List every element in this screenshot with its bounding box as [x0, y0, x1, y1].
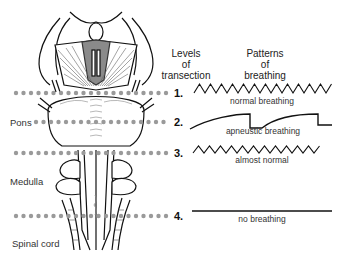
transection-dot [96, 214, 100, 218]
patterns-header: Patterns of breathing [232, 48, 298, 81]
levels-header-line: of [160, 59, 212, 70]
transection-dot [81, 91, 85, 95]
transection-dot [36, 214, 40, 218]
transection-dot [104, 91, 108, 95]
transection-dot [149, 214, 153, 218]
transection-dot [71, 120, 75, 124]
label-pons: Pons [10, 117, 32, 128]
transection-dot [29, 151, 33, 155]
transection-dot [101, 120, 105, 124]
transection-dot [29, 91, 33, 95]
label-medulla: Medulla [10, 176, 43, 187]
transection-dot [64, 120, 68, 124]
transection-dot [119, 91, 123, 95]
level-number-2: 2. [174, 116, 183, 128]
transection-dot [51, 151, 55, 155]
transection-dot [56, 120, 60, 124]
transection-dot [34, 120, 38, 124]
transection-dot [156, 151, 160, 155]
transection-dot [109, 120, 113, 124]
transection-dot [141, 91, 145, 95]
transection-dot [111, 91, 115, 95]
transection-dot [44, 214, 48, 218]
transection-dot [111, 151, 115, 155]
transection-dot [59, 214, 63, 218]
transection-dot [59, 91, 63, 95]
levels-header-line: Levels [160, 48, 212, 59]
transection-dot [119, 151, 123, 155]
transection-dot [14, 214, 18, 218]
transection-dot [44, 91, 48, 95]
transection-dot [89, 214, 93, 218]
transection-dot [126, 214, 130, 218]
transection-dot [74, 151, 78, 155]
patterns-header-line: breathing [232, 70, 298, 81]
transection-dot [94, 120, 98, 124]
transection-dot [134, 214, 138, 218]
wave-normal-breathing [194, 84, 332, 93]
label-spinal-cord: Spinal cord [12, 238, 60, 249]
transection-dot [29, 214, 33, 218]
level-number-1: 1. [174, 87, 183, 99]
transection-dot [139, 120, 143, 124]
level-number-4: 4. [174, 210, 183, 222]
transection-dot [21, 151, 25, 155]
transection-dot [124, 120, 128, 124]
transection-dot [74, 214, 78, 218]
transection-dot [79, 120, 83, 124]
transection-dot [36, 151, 40, 155]
transection-dot [51, 91, 55, 95]
transection-dot [156, 91, 160, 95]
transection-dot [36, 91, 40, 95]
transection-dot [89, 91, 93, 95]
transection-dot [156, 214, 160, 218]
transection-dot [49, 120, 53, 124]
transection-dot [126, 91, 130, 95]
transection-dot [81, 151, 85, 155]
transection-dot [149, 151, 153, 155]
patterns-header-line: of [232, 59, 298, 70]
transection-dot [66, 214, 70, 218]
transection-dot [81, 214, 85, 218]
patterns-header-line: Patterns [232, 48, 298, 59]
transection-dot [41, 120, 45, 124]
transection-dot [86, 120, 90, 124]
transection-dot [164, 214, 168, 218]
transection-dot [116, 120, 120, 124]
levels-header: Levels of transection [160, 48, 212, 81]
transection-dot [14, 91, 18, 95]
transection-dot [51, 214, 55, 218]
transection-dot [96, 91, 100, 95]
levels-header-line: transection [160, 70, 212, 81]
caption-normal-breathing: normal breathing [222, 96, 302, 106]
transection-dot [134, 91, 138, 95]
transection-dot [126, 151, 130, 155]
transection-dot [111, 214, 115, 218]
transection-dot [96, 151, 100, 155]
caption-no-breathing: no breathing [222, 214, 302, 224]
caption-apneustic-breathing: apneustic breathing [218, 126, 308, 136]
transection-dot [104, 214, 108, 218]
transection-dot [89, 151, 93, 155]
transection-dot [164, 91, 168, 95]
wave-almost-normal [193, 146, 320, 153]
transection-dot [141, 151, 145, 155]
transection-dot [21, 91, 25, 95]
transection-dot [119, 214, 123, 218]
transection-dot [14, 151, 18, 155]
transection-dot [154, 120, 158, 124]
transection-dot [164, 151, 168, 155]
caption-almost-normal: almost normal [222, 155, 302, 165]
transection-dot [134, 151, 138, 155]
transection-dot [149, 91, 153, 95]
transection-dot [66, 151, 70, 155]
level-number-3: 3. [174, 147, 183, 159]
transection-dot [66, 91, 70, 95]
transection-dot [59, 151, 63, 155]
transection-dot [146, 120, 150, 124]
transection-dot [141, 214, 145, 218]
transection-dot [74, 91, 78, 95]
transection-dot [104, 151, 108, 155]
transection-dot [44, 151, 48, 155]
transection-dot [131, 120, 135, 124]
